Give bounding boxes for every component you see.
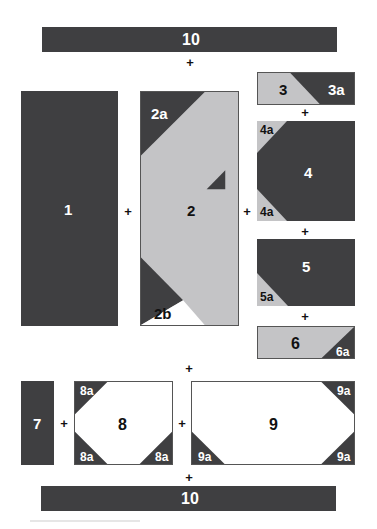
plus-sign: + bbox=[243, 205, 251, 218]
piece-5: 5 5a bbox=[257, 239, 355, 306]
piece-8-label: 8 bbox=[118, 417, 127, 433]
piece-10-top: 10 bbox=[42, 27, 337, 52]
piece-4-label: 4 bbox=[304, 165, 312, 180]
piece-6-label: 6 bbox=[291, 336, 300, 352]
piece-4a-top-label: 4a bbox=[260, 124, 273, 136]
plus-sign: + bbox=[60, 417, 68, 430]
piece-9a-bottom-left-label: 9a bbox=[198, 451, 211, 463]
piece-3: 3 3a bbox=[257, 72, 355, 105]
piece-3a-label: 3a bbox=[328, 82, 345, 97]
piece-10-bottom-label: 10 bbox=[181, 491, 199, 507]
piece-9-label: 9 bbox=[269, 417, 278, 433]
plus-sign: + bbox=[185, 471, 193, 484]
piece-2a-label: 2a bbox=[151, 106, 168, 121]
piece-4a-bottom-label: 4a bbox=[260, 206, 273, 218]
piece-6: 6 6a bbox=[257, 326, 355, 359]
piece-2-label: 2 bbox=[187, 203, 195, 218]
plus-sign: + bbox=[186, 56, 194, 69]
piece-3-label: 3 bbox=[279, 82, 287, 97]
piece-8: 8a 8 8a 8a bbox=[74, 381, 173, 465]
piece-1-label: 1 bbox=[64, 202, 72, 217]
piece-7: 7 bbox=[21, 381, 54, 465]
plus-sign: + bbox=[301, 225, 309, 238]
piece-8a-bottom-left-label: 8a bbox=[80, 451, 93, 463]
plus-sign: + bbox=[301, 106, 309, 119]
piece-9a-top-right-label: 9a bbox=[337, 385, 350, 397]
piece-7-label: 7 bbox=[33, 416, 41, 431]
piece-6a-label: 6a bbox=[336, 346, 349, 358]
plus-sign: + bbox=[178, 417, 186, 430]
plus-sign: + bbox=[185, 362, 193, 375]
piece-9a-bottom-right-label: 9a bbox=[337, 451, 350, 463]
piece-8a-top-left-label: 8a bbox=[80, 385, 93, 397]
plus-sign: + bbox=[301, 310, 309, 323]
plus-sign: + bbox=[124, 205, 132, 218]
piece-10-top-label: 10 bbox=[182, 32, 200, 48]
piece-4: 4a 4 4a bbox=[257, 121, 355, 221]
piece-5-label: 5 bbox=[302, 259, 310, 274]
piece-2b-label: 2b bbox=[154, 306, 172, 321]
piece-10-bottom: 10 bbox=[41, 486, 336, 511]
caption-line bbox=[30, 520, 140, 522]
piece-2: 2a 2 2b bbox=[140, 91, 239, 326]
piece-8a-bottom-right-label: 8a bbox=[155, 451, 168, 463]
piece-9: 9a 9 9a 9a bbox=[191, 381, 355, 465]
piece-5a-label: 5a bbox=[260, 291, 273, 303]
piece-1: 1 bbox=[21, 91, 118, 326]
